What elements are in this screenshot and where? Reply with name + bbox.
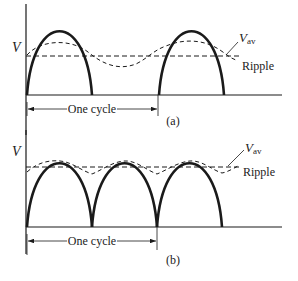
y-axis-label: V	[12, 40, 22, 55]
rectified-pulse	[92, 163, 157, 227]
rectified-pulse	[27, 163, 92, 227]
cycle-label: One cycle	[68, 234, 116, 248]
y-axis-label: V	[12, 144, 22, 159]
vav-leader	[226, 42, 238, 55]
vav-label: Vav	[239, 30, 256, 46]
vav-label: Vav	[245, 140, 262, 156]
panel-caption: (b)	[166, 253, 180, 267]
ripple-label: Ripple	[242, 59, 274, 73]
cycle-label: One cycle	[68, 102, 116, 116]
rectified-pulse	[27, 31, 92, 95]
vav-leader	[228, 150, 244, 166]
rectified-pulse	[157, 163, 222, 227]
rectified-pulse	[159, 31, 224, 95]
panel-b: V Vav Ripple One cycle (b)	[12, 130, 282, 267]
ripple-waveform	[27, 41, 236, 67]
ripple-label: Ripple	[243, 165, 275, 179]
rectifier-ripple-figure: V Vav Ripple One cycle (a) V Vav Ripple	[0, 0, 298, 281]
panel-a: V Vav Ripple One cycle (a)	[12, 4, 282, 135]
panel-caption: (a)	[166, 114, 179, 128]
